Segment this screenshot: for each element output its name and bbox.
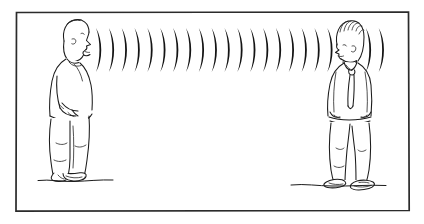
speaker-legs (50, 116, 90, 178)
illustration-canvas (0, 0, 424, 224)
scene-svg (0, 0, 424, 224)
speaker-shoes (51, 173, 86, 182)
listener-head (336, 21, 365, 62)
